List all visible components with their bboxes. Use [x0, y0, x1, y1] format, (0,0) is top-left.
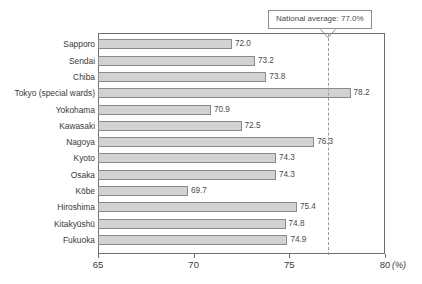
bar-value-label: 69.7	[191, 186, 207, 196]
x-axis-unit-label: (%)	[392, 259, 406, 271]
category-label: Kitakyūshū	[54, 219, 95, 229]
bar-row: Osaka74.3	[0, 167, 422, 183]
bar-row: Kyoto74.3	[0, 150, 422, 166]
bar-row: Yokohama70.9	[0, 101, 422, 117]
bar-value-label: 72.5	[245, 121, 261, 131]
bar-row: Fukuoka74.9	[0, 232, 422, 248]
national-average-callout: National average: 77.0%	[268, 10, 372, 29]
bar-value-label: 75.4	[300, 202, 316, 212]
category-label: Kyoto	[74, 153, 95, 163]
category-label: Yokohama	[56, 105, 95, 115]
bar-row: Kitakyūshū74.8	[0, 216, 422, 232]
callout-tail-icon	[320, 29, 336, 38]
bar	[98, 39, 232, 49]
category-label: Kawasaki	[59, 121, 95, 131]
bar-value-label: 74.3	[279, 170, 295, 180]
bar	[98, 137, 314, 147]
bar-value-label: 73.2	[258, 56, 274, 66]
bar-value-label: 73.8	[269, 72, 285, 82]
category-label: Tokyo (special wards)	[14, 88, 95, 98]
bar-row: Kōbe69.7	[0, 183, 422, 199]
bar-row: Chiba73.8	[0, 69, 422, 85]
bar	[98, 186, 188, 196]
bar	[98, 105, 211, 115]
x-axis-tick-label: 65	[93, 259, 104, 271]
x-axis-tick	[98, 254, 99, 258]
x-axis-tick-label: 70	[188, 259, 199, 271]
bar	[98, 121, 242, 131]
bar	[98, 88, 351, 98]
bar	[98, 56, 255, 66]
bar	[98, 202, 297, 212]
bar-value-label: 70.9	[214, 105, 230, 115]
bar-row: Hiroshima75.4	[0, 199, 422, 215]
x-axis-tick-label: 80	[380, 259, 391, 271]
category-label: Sapporo	[63, 39, 95, 49]
x-axis-tick	[289, 254, 290, 258]
bar-rows: Sapporo72.0Sendai73.2Chiba73.8Tokyo (spe…	[0, 33, 422, 254]
category-label: Osaka	[71, 170, 95, 180]
bar-value-label: 78.2	[354, 88, 370, 98]
national-average-line	[328, 33, 329, 255]
bar-chart: National average: 77.0% Sapporo72.0Senda…	[0, 0, 422, 284]
bar-value-label: 74.3	[279, 153, 295, 163]
category-label: Nagoya	[66, 137, 95, 147]
bar-row: Sendai73.2	[0, 53, 422, 69]
bar-row: Kawasaki72.5	[0, 118, 422, 134]
x-axis: 65707580(%)	[0, 254, 422, 284]
bar-value-label: 76.3	[317, 137, 333, 147]
bar-value-label: 72.0	[235, 39, 251, 49]
category-label: Fukuoka	[63, 235, 95, 245]
x-axis-tick-label: 75	[284, 259, 295, 271]
bar-row: Tokyo (special wards)78.2	[0, 85, 422, 101]
bar	[98, 235, 287, 245]
category-label: Chiba	[73, 72, 95, 82]
category-label: Sendai	[69, 56, 95, 66]
bar-value-label: 74.8	[289, 219, 305, 229]
x-axis-tick	[385, 254, 386, 258]
bar-row: Nagoya76.3	[0, 134, 422, 150]
bar-value-label: 74.9	[290, 235, 306, 245]
category-label: Hiroshima	[57, 202, 95, 212]
x-axis-tick	[194, 254, 195, 258]
bar	[98, 170, 276, 180]
category-label: Kōbe	[75, 186, 95, 196]
bar	[98, 219, 286, 229]
bar	[98, 72, 266, 82]
bar	[98, 153, 276, 163]
bar-row: Sapporo72.0	[0, 36, 422, 52]
